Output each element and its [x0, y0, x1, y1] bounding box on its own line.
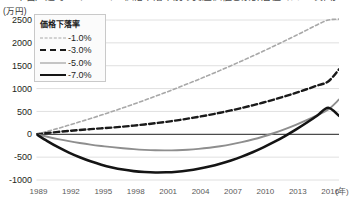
- y-tick-label: 500: [17, 107, 32, 117]
- y-tick-label: 2500: [12, 15, 32, 25]
- legend-item-2[interactable]: -3.0%: [40, 44, 101, 57]
- legend-label-4: -7.0%: [68, 70, 92, 80]
- legend-label-3: -5.0%: [68, 58, 92, 68]
- series-line-50: [37, 100, 340, 151]
- y-tick-label: 1500: [12, 61, 32, 71]
- y-tick-label: 1000: [12, 84, 32, 94]
- legend-title: 価格下落率: [40, 18, 101, 29]
- legend-item-4[interactable]: -7.0%: [40, 69, 101, 82]
- x-tick-label: 2004: [192, 187, 210, 196]
- x-tick-label: 1992: [62, 187, 80, 196]
- x-tick-label: 2001: [159, 187, 177, 196]
- legend-swatch-solid-gray-icon: [40, 59, 66, 67]
- legend-item-1[interactable]: -1.0%: [40, 32, 101, 45]
- legend-label-2: -3.0%: [68, 45, 92, 55]
- x-tick-label: 1998: [127, 187, 145, 196]
- x-axis-unit-label: (年): [335, 186, 349, 196]
- x-tick-label: 2007: [224, 187, 242, 196]
- legend-label-1: -1.0%: [68, 33, 92, 43]
- y-tick-label: -1000: [9, 175, 32, 185]
- y-tick-label: 0: [27, 129, 32, 139]
- legend-item-3[interactable]: -5.0%: [40, 57, 101, 70]
- x-tick-label: 2010: [256, 187, 274, 196]
- legend-swatch-dashed-light-icon: [40, 34, 66, 42]
- x-tick-label: 2013: [289, 187, 307, 196]
- legend: 価格下落率 -1.0% -3.0% -5.0% -7.0%: [34, 14, 106, 82]
- x-tick-label: 1989: [30, 187, 48, 196]
- legend-swatch-dashed-bold-icon: [40, 46, 66, 54]
- y-tick-label: -500: [14, 152, 32, 162]
- y-tick-label: 2000: [12, 38, 32, 48]
- x-tick-label: 1995: [94, 187, 112, 196]
- legend-swatch-solid-black-icon: [40, 71, 66, 79]
